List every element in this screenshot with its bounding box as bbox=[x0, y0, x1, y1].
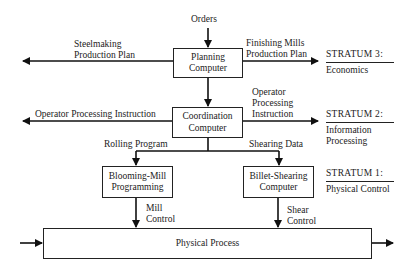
coordination-computer-box: Coordination Computer bbox=[172, 107, 243, 138]
stratum-3: STRATUM 3: Economics bbox=[326, 49, 394, 76]
shear-control-label: Shear Control bbox=[287, 205, 316, 227]
operator-instruction-left-label: Operator Processing Instruction bbox=[35, 109, 156, 120]
steelmaking-plan-label: Steelmaking Production Plan bbox=[74, 39, 135, 61]
finishing-plan-label: Finishing Mills Production Plan bbox=[246, 38, 307, 60]
billet-shearing-computer-box: Billet-Shearing Computer bbox=[243, 166, 314, 198]
mill-control-label: Mill Control bbox=[146, 203, 175, 225]
planning-computer-box: Planning Computer bbox=[173, 48, 243, 78]
orders-label: Orders bbox=[191, 14, 217, 25]
physical-process-box: Physical Process bbox=[43, 228, 372, 259]
blooming-mill-programming-box: Blooming-Mill Programming bbox=[102, 166, 173, 198]
rolling-program-label: Rolling Program bbox=[104, 139, 168, 150]
shearing-data-label: Shearing Data bbox=[249, 139, 303, 150]
stratum-1: STRATUM 1: Physical Control bbox=[326, 168, 394, 195]
operator-instruction-right-label: Operator Processing Instruction bbox=[252, 87, 293, 120]
stratum-2: STRATUM 2: Information Processing bbox=[326, 109, 394, 147]
